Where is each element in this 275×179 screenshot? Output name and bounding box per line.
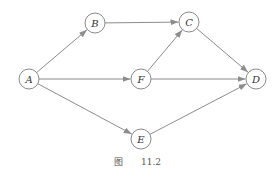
node-label: D: [251, 74, 260, 85]
edge-c-d: [197, 28, 248, 72]
edge-b-c: [105, 22, 179, 23]
node-d: D: [246, 69, 266, 89]
graph-diagram: ABCDEF 图 11.2: [0, 0, 275, 179]
caption-number: 11.2: [141, 157, 161, 167]
node-label: A: [24, 74, 32, 85]
edge-f-c: [147, 30, 182, 71]
node-label: F: [137, 74, 146, 85]
node-label: E: [136, 134, 145, 145]
node-f: F: [131, 69, 151, 89]
caption-prefix: 图: [114, 157, 123, 167]
node-label: B: [90, 18, 98, 29]
edge-a-b: [37, 30, 87, 73]
node-b: B: [85, 13, 105, 33]
edge-a-e: [38, 84, 132, 134]
node-e: E: [131, 129, 151, 149]
nodes-group: ABCDEF: [19, 12, 266, 149]
node-label: C: [185, 17, 193, 28]
edge-e-d: [150, 84, 247, 135]
node-a: A: [19, 69, 39, 89]
node-c: C: [179, 12, 199, 32]
